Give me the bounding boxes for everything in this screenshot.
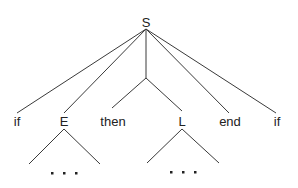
edge-s-e [64,29,146,113]
parse-tree-diagram: S if E then L end if [0,0,298,188]
ellipsis-l [170,171,197,174]
node-e: E [60,114,69,129]
node-if-2: if [274,114,281,129]
edge-s-if2 [146,29,276,113]
edge-e-left [29,129,64,164]
edge-e-right [64,129,100,164]
dot [194,171,197,174]
node-then: then [100,114,125,129]
edge-s-if [17,29,146,113]
dot [63,172,66,175]
dot [75,172,78,175]
node-end: end [219,114,241,129]
edge-s-end [146,29,229,113]
node-if: if [14,114,21,129]
dot [170,171,173,174]
edge-junction-l [146,78,182,111]
edge-junction-then [112,78,146,108]
node-l: L [178,114,185,129]
edge-l-left [147,129,182,163]
dot [182,171,185,174]
ellipsis-e [51,172,78,175]
node-root-s: S [142,15,151,30]
edge-l-right [182,129,219,163]
dot [51,172,54,175]
